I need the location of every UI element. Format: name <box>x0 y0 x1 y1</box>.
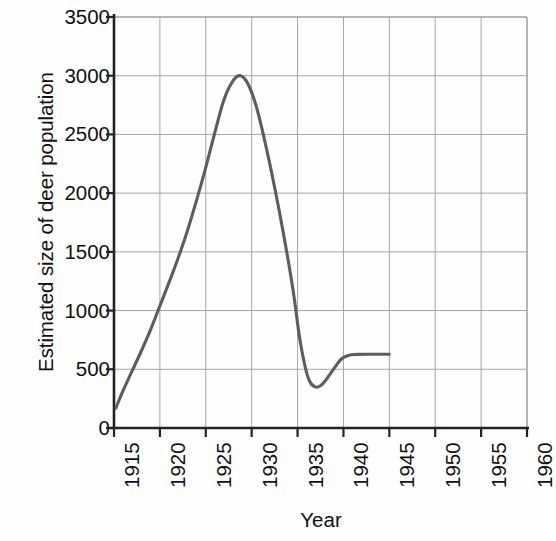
grid-lines <box>114 17 527 428</box>
data-series-line <box>116 76 389 408</box>
axis-tick-marks <box>106 17 527 437</box>
